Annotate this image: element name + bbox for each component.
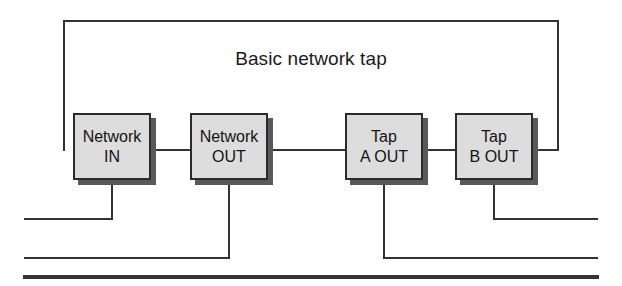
node-network-out[interactable]: Network OUT xyxy=(190,113,268,180)
node-tap-b-out[interactable]: Tap B OUT xyxy=(455,113,533,180)
node-tap-b-out-label-line1: Tap xyxy=(481,127,507,147)
node-network-out-label-line1: Network xyxy=(200,127,259,147)
wire-drop-tap-b-out xyxy=(494,180,597,219)
network-tap-diagram: Basic network tap Network IN Network OUT… xyxy=(0,0,622,286)
node-network-in-label-line2: IN xyxy=(104,147,120,167)
diagram-title: Basic network tap xyxy=(0,48,622,70)
node-tap-b-out-label-line2: B OUT xyxy=(470,147,519,167)
node-network-out-label-line2: OUT xyxy=(212,147,246,167)
node-tap-a-out[interactable]: Tap A OUT xyxy=(345,113,423,180)
node-network-in-label-line1: Network xyxy=(83,127,142,147)
wire-drop-network-in xyxy=(25,180,112,219)
node-tap-a-out-label-line1: Tap xyxy=(371,127,397,147)
node-network-in[interactable]: Network IN xyxy=(73,113,151,180)
node-tap-a-out-label-line2: A OUT xyxy=(360,147,408,167)
